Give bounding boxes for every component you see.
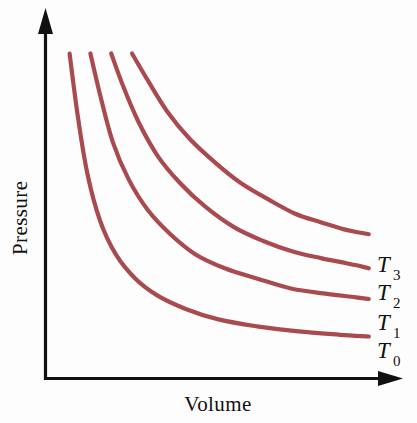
curve-label-T2-main: T — [377, 280, 392, 305]
curve-label-T3-main: T — [377, 252, 392, 277]
y-axis-label: Pressure — [8, 181, 32, 255]
curve-label-T3-sub: 3 — [393, 267, 401, 283]
isotherm-figure: Pressure Volume T 3 T 2 T 1 T 0 — [0, 0, 417, 423]
curve-label-T2-sub: 2 — [393, 295, 401, 311]
curve-label-T0-sub: 0 — [393, 353, 401, 369]
x-axis-label: Volume — [184, 392, 251, 416]
pressure-volume-chart: Pressure Volume T 3 T 2 T 1 T 0 — [0, 0, 417, 423]
curve-label-T1-sub: 1 — [393, 325, 401, 341]
curve-label-T1-main: T — [377, 310, 392, 335]
curve-label-T0-main: T — [377, 338, 392, 363]
